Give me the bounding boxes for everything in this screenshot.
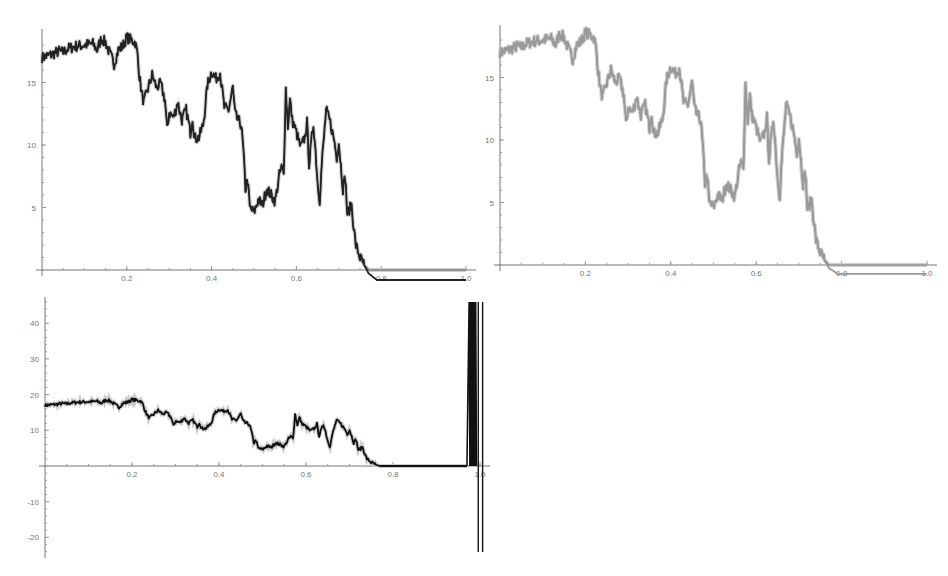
y-tick-label: 20 bbox=[30, 391, 39, 400]
series-line-lower bbox=[42, 33, 466, 280]
y-tick-label: 10 bbox=[30, 426, 39, 435]
series-halo bbox=[42, 33, 466, 270]
y-tick-label: 10 bbox=[27, 141, 36, 150]
plot-top-right: 0.20.40.60.81.051015 bbox=[485, 25, 937, 278]
x-tick-label: 0.6 bbox=[291, 274, 303, 283]
spike-band bbox=[470, 302, 474, 466]
y-tick-label: -10 bbox=[27, 498, 39, 507]
series-line-upper bbox=[500, 28, 927, 265]
x-tick-label: 0.6 bbox=[751, 269, 763, 278]
x-tick-label: 0.2 bbox=[580, 269, 592, 278]
y-tick-label: -20 bbox=[27, 533, 39, 542]
x-tick-label: 1.0 bbox=[460, 274, 472, 283]
x-tick-label: 0.8 bbox=[376, 274, 388, 283]
x-tick-label: 1.0 bbox=[474, 470, 486, 479]
x-tick-label: 0.4 bbox=[213, 470, 225, 479]
x-tick-label: 0.4 bbox=[665, 269, 677, 278]
x-tick-label: 0.4 bbox=[206, 274, 218, 283]
plot-top-left: 0.20.40.60.81.051015 bbox=[27, 29, 476, 283]
x-tick-label: 0.2 bbox=[126, 470, 138, 479]
y-tick-label: 15 bbox=[485, 74, 494, 83]
x-tick-label: 0.2 bbox=[121, 274, 133, 283]
y-tick-label: 15 bbox=[27, 79, 36, 88]
series-line bbox=[45, 398, 467, 466]
x-tick-label: 0.6 bbox=[300, 470, 312, 479]
series-line-lower bbox=[500, 28, 927, 274]
y-tick-label: 5 bbox=[32, 204, 37, 213]
series-line-upper bbox=[42, 33, 466, 270]
y-tick-label: 5 bbox=[490, 199, 495, 208]
y-tick-label: 10 bbox=[485, 136, 494, 145]
plot-bottom-left: 0.20.40.60.81.0-20-1010203040 bbox=[27, 297, 490, 558]
y-tick-label: 30 bbox=[30, 355, 39, 364]
y-tick-label: 40 bbox=[30, 319, 39, 328]
chart-canvas: 0.20.40.60.81.051015 0.20.40.60.81.05101… bbox=[0, 0, 948, 576]
series-halo bbox=[500, 28, 927, 265]
x-tick-label: 0.8 bbox=[387, 470, 399, 479]
series-halo bbox=[45, 398, 467, 466]
